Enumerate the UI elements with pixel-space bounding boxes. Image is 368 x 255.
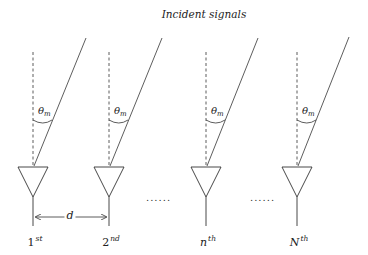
- label-base: 1: [28, 236, 35, 249]
- angle-label-2: θm: [114, 105, 127, 118]
- incident-signal-line: [207, 38, 258, 166]
- antenna-triangle-icon: [18, 167, 48, 197]
- theta-subscript: m: [217, 110, 224, 118]
- antenna-label-n: nth: [200, 234, 216, 249]
- label-suffix: th: [208, 234, 216, 243]
- antenna-triangle-icon: [191, 167, 221, 197]
- incident-signal-line: [34, 38, 86, 166]
- theta-subscript: m: [44, 110, 51, 118]
- label-base: n: [200, 236, 207, 249]
- incident-signal-line: [298, 37, 349, 166]
- ellipsis-left: ......: [146, 192, 171, 203]
- label-suffix: th: [300, 234, 308, 243]
- label-suffix: nd: [110, 234, 120, 243]
- angle-arc: [109, 120, 128, 123]
- antenna-N: [282, 37, 349, 226]
- antenna-1: [18, 38, 86, 226]
- diagram-canvas: [0, 0, 368, 255]
- incident-signal-line: [110, 38, 162, 166]
- angle-arc: [297, 120, 316, 123]
- antenna-label-1: 1st: [28, 234, 43, 249]
- theta-subscript: m: [120, 110, 127, 118]
- angle-arc: [33, 120, 52, 123]
- ellipsis-right: ......: [250, 192, 275, 203]
- angle-label-1: θm: [38, 105, 51, 118]
- antenna-label-2: 2nd: [102, 234, 120, 249]
- antenna-triangle-icon: [282, 167, 312, 197]
- antenna-triangle-icon: [94, 167, 124, 197]
- spacing-label: d: [64, 209, 75, 222]
- antenna-label-N: Nth: [290, 234, 308, 249]
- diagram-title: Incident signals: [0, 8, 368, 20]
- label-suffix: st: [36, 234, 43, 243]
- antenna-array-diagram: Incident signals θm θm θm θm d ...... ..…: [0, 0, 368, 255]
- antenna-n: [191, 38, 258, 226]
- label-base: 2: [102, 236, 109, 249]
- angle-label-N: θm: [302, 105, 315, 118]
- theta-subscript: m: [308, 110, 315, 118]
- angle-arc: [206, 120, 225, 123]
- angle-label-n: θm: [211, 105, 224, 118]
- label-base: N: [290, 236, 300, 249]
